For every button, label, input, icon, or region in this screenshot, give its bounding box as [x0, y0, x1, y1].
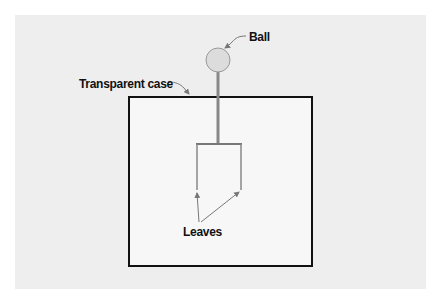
ball-leader-arrow [225, 36, 246, 48]
transparent-case [129, 97, 312, 266]
leaves-label: Leaves [183, 225, 223, 239]
case-label: Transparent case [79, 77, 174, 91]
ball-label: Ball [249, 30, 270, 44]
ball [206, 48, 230, 72]
electroscope-diagram: Ball Transparent case Leaves [0, 0, 439, 302]
